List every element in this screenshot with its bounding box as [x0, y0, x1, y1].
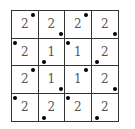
grid-cell: 2: [39, 94, 66, 122]
dot-icon: [113, 87, 117, 91]
grid-cell: 2: [65, 94, 92, 122]
cell-value: 2: [21, 72, 29, 86]
dot-icon: [66, 96, 70, 100]
cell-value: 1: [47, 45, 55, 59]
dot-icon: [31, 68, 35, 72]
grid-cell: 2: [12, 66, 39, 94]
grid-cell: 2: [12, 39, 39, 67]
cell-value: 2: [74, 100, 82, 114]
cell-value: 1: [74, 72, 82, 86]
dot-icon: [59, 32, 63, 36]
grid-cell: 2: [92, 94, 119, 122]
dot-icon: [13, 96, 17, 100]
grid-cell: 2: [12, 11, 39, 39]
cell-value: 2: [21, 45, 29, 59]
cell-value: 2: [101, 72, 109, 86]
cell-value: 2: [47, 17, 55, 31]
number-grid: 2 2 2 2 2 1 1 2 2 1 1 2 2 2 2 2: [11, 10, 119, 122]
cell-value: 2: [47, 100, 55, 114]
cell-value: 2: [101, 17, 109, 31]
grid-cell: 2: [39, 11, 66, 39]
grid-cell: 2: [92, 39, 119, 67]
grid-cell: 1: [39, 39, 66, 67]
dot-icon: [42, 60, 46, 64]
grid-cell: 1: [65, 66, 92, 94]
dot-icon: [13, 41, 17, 45]
grid-cell: 2: [92, 11, 119, 39]
dot-icon: [95, 60, 99, 64]
cell-value: 2: [101, 45, 109, 59]
dot-icon: [31, 13, 35, 17]
cell-value: 2: [21, 17, 29, 31]
cell-value: 2: [74, 17, 82, 31]
cell-value: 1: [47, 72, 55, 86]
cell-value: 2: [101, 100, 109, 114]
dot-icon: [59, 87, 63, 91]
dot-icon: [42, 116, 46, 120]
cell-value: 2: [21, 100, 29, 114]
grid-cell: 2: [92, 66, 119, 94]
grid-cell: 1: [39, 66, 66, 94]
dot-icon: [113, 32, 117, 36]
grid-cell: 2: [65, 11, 92, 39]
grid-cell: 2: [12, 94, 39, 122]
dot-icon: [84, 13, 88, 17]
cell-value: 1: [74, 45, 82, 59]
grid-cell: 1: [65, 39, 92, 67]
dot-icon: [84, 68, 88, 72]
dot-icon: [66, 41, 70, 45]
dot-icon: [95, 116, 99, 120]
